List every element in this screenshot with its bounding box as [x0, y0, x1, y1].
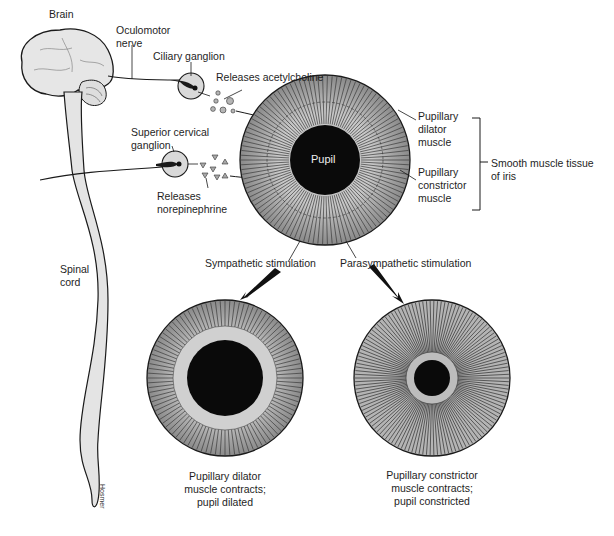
releases-norepinephrine-label: Releases norepinephrine	[157, 190, 227, 216]
spinal-cord-label: Spinal cord	[60, 263, 89, 289]
spinal-cord-illustration	[64, 92, 108, 507]
dilator-muscle-label: Pupillary dilator muscle	[418, 110, 458, 149]
ciliary-ganglion	[170, 62, 210, 99]
brain-label: Brain	[49, 8, 74, 21]
iris-dilated	[147, 300, 303, 456]
parasympathetic-label: Parasympathetic stimulation	[340, 257, 471, 270]
constrictor-muscle-label: Pupillary constrictor muscle	[418, 166, 466, 205]
artist-signature: Hosmer	[99, 484, 106, 509]
acetylcholine-molecules	[211, 91, 235, 113]
smooth-muscle-label: Smooth muscle tissue of iris	[491, 157, 594, 183]
dilated-caption: Pupillary dilator muscle contracts; pupi…	[170, 470, 280, 509]
superior-cervical-ganglion-label: Superior cervical ganglion	[131, 126, 209, 152]
oculomotor-nerve-line	[108, 76, 180, 80]
sympathetic-label: Sympathetic stimulation	[205, 257, 316, 270]
sympathetic-arrow	[240, 241, 300, 300]
ciliary-ganglion-label: Ciliary ganglion	[153, 50, 225, 63]
pupil-label: Pupil	[311, 153, 335, 166]
parasympathetic-arrow	[346, 241, 404, 304]
smooth-muscle-bracket	[472, 118, 488, 210]
oculomotor-nerve-label: Oculomotor nerve	[116, 24, 170, 50]
releases-acetylcholine-label: Releases acetylcholine	[216, 71, 323, 84]
constricted-caption: Pupillary constrictor muscle contracts; …	[372, 469, 492, 508]
iris-constricted	[354, 300, 510, 456]
norepinephrine-molecules	[200, 155, 228, 180]
